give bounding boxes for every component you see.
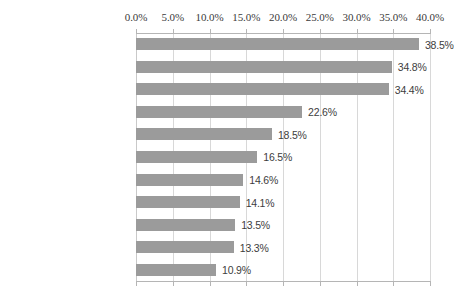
value-label: 18.5% bbox=[278, 129, 307, 141]
value-label: 14.1% bbox=[246, 197, 275, 209]
x-tick-label: 0.0% bbox=[125, 11, 148, 23]
bar bbox=[136, 38, 419, 50]
bar-row: Advertising14.1% bbox=[0, 191, 454, 213]
value-label: 16.5% bbox=[263, 151, 292, 163]
value-label: 38.5% bbox=[425, 39, 454, 51]
x-tick-label: 20.0% bbox=[269, 11, 297, 23]
value-label: 10.9% bbox=[222, 264, 251, 276]
value-label: 13.5% bbox=[241, 219, 270, 231]
bar-row: Fast service34.8% bbox=[0, 56, 454, 78]
bar bbox=[136, 196, 240, 208]
bar bbox=[136, 106, 302, 118]
bar-row: Quality of food18.5% bbox=[0, 123, 454, 145]
bar bbox=[136, 241, 234, 253]
x-tick-mark bbox=[357, 282, 358, 286]
bar bbox=[136, 151, 257, 163]
bar bbox=[136, 61, 392, 73]
bar-row: Portion size10.9% bbox=[0, 258, 454, 280]
value-label: 14.6% bbox=[249, 174, 278, 186]
x-tick-mark bbox=[320, 282, 321, 286]
x-tick-mark bbox=[136, 282, 137, 286]
bar bbox=[136, 174, 243, 186]
value-label: 34.4% bbox=[395, 84, 424, 96]
x-tick-mark bbox=[210, 282, 211, 286]
x-tick-label: 35.0% bbox=[379, 11, 407, 23]
x-tick-label: 10.0% bbox=[196, 11, 224, 23]
bar bbox=[136, 128, 272, 140]
bar bbox=[136, 219, 235, 231]
x-tick-mark bbox=[430, 282, 431, 286]
x-tick-mark bbox=[173, 282, 174, 286]
bar-row: Open late16.5% bbox=[0, 146, 454, 168]
bar-row: Healthy menu options13.5% bbox=[0, 213, 454, 235]
bar-chart: 0.0%5.0%10.0%15.0%20.0%25.0%30.0%35.0%40… bbox=[0, 0, 454, 305]
bar-row: Decor of restaurant14.6% bbox=[0, 168, 454, 190]
bar-row: Cleanliness38.5% bbox=[0, 33, 454, 55]
x-tick-mark bbox=[393, 282, 394, 286]
value-label: 34.8% bbox=[398, 61, 427, 73]
bar-row: Price22.6% bbox=[0, 101, 454, 123]
bar-row: Location34.4% bbox=[0, 78, 454, 100]
bar bbox=[136, 264, 216, 276]
bar bbox=[136, 83, 389, 95]
x-tick-label: 30.0% bbox=[343, 11, 371, 23]
value-label: 22.6% bbox=[308, 106, 337, 118]
x-tick-mark bbox=[283, 282, 284, 286]
x-tick-mark bbox=[246, 282, 247, 286]
value-label: 13.3% bbox=[240, 242, 269, 254]
x-tick-label: 40.0% bbox=[416, 11, 444, 23]
x-tick-label: 15.0% bbox=[232, 11, 260, 23]
bar-row: Menu selection13.3% bbox=[0, 236, 454, 258]
x-tick-label: 5.0% bbox=[161, 11, 184, 23]
x-tick-label: 25.0% bbox=[306, 11, 334, 23]
